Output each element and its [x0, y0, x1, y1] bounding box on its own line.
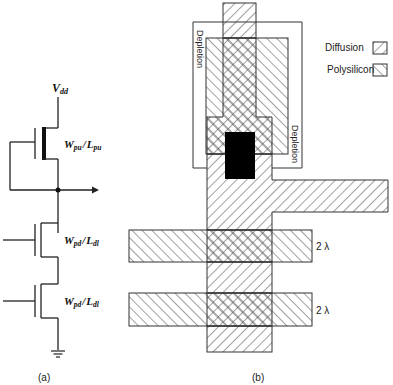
- buried-contact: [225, 132, 255, 179]
- caption-b: (b): [252, 372, 264, 383]
- diffusion-bottom: [207, 326, 272, 352]
- diffusion-middle: [207, 262, 272, 293]
- pullup-channel: [42, 127, 46, 160]
- pulldown2-channel-overlap: [207, 293, 272, 326]
- ground-icon: [51, 351, 65, 357]
- legend-diffusion-label: Diffusion: [325, 42, 364, 53]
- layout-diagram: [129, 3, 388, 352]
- gate1-width-label: 2 λ: [316, 241, 329, 252]
- diffusion-top: [223, 3, 256, 38]
- polysilicon-hatch-icon: [373, 64, 387, 76]
- pulldown2-ratio-label: Wpd/Ldl: [64, 295, 100, 309]
- vdd-label: Vdd: [52, 81, 69, 96]
- legend: Diffusion Polysilicon: [325, 42, 387, 76]
- circuit-schematic: [3, 97, 92, 350]
- diffusion-hatch-icon: [373, 42, 387, 54]
- output-node-dot: [56, 188, 61, 193]
- nmos-nand-figure: Vdd Wpu/Lpu Wpd/Ldl Wpd/Ldl (a) Depletio…: [0, 0, 393, 385]
- pulldown1-channel-overlap: [207, 230, 272, 262]
- depletion-label-right: Depletion: [290, 125, 300, 163]
- caption-a: (a): [38, 372, 50, 383]
- legend-polysilicon-label: Polysilicon: [327, 64, 374, 75]
- pulldown1-ratio-label: Wpd/Ldl: [64, 234, 100, 248]
- pullup-ratio-label: Wpu/Lpu: [64, 138, 101, 152]
- gate2-width-label: 2 λ: [316, 305, 329, 316]
- depletion-label-left: Depletion: [195, 30, 205, 68]
- output-arrow-icon: [92, 187, 99, 194]
